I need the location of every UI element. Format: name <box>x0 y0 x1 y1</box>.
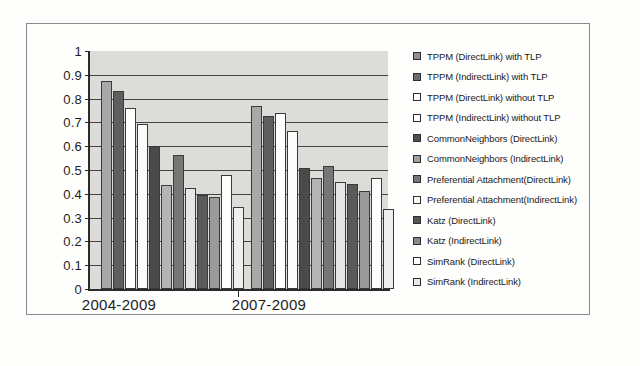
y-tick-label-2: 0.8 <box>36 93 82 106</box>
y-tick-label-1: 0.9 <box>36 69 82 82</box>
y-tick-label-4: 0.6 <box>36 140 82 153</box>
legend-swatch-icon-10 <box>413 257 421 265</box>
legend-item-2[interactable]: TPPM (DirectLink) without TLP <box>413 87 588 108</box>
legend-item-9[interactable]: Katz (IndirectLink) <box>413 231 588 252</box>
bar-0-9 <box>209 197 220 289</box>
bar-1-6 <box>323 166 334 289</box>
bar-0-2 <box>125 108 136 289</box>
legend-item-10[interactable]: SimRank (DirectLink) <box>413 251 588 272</box>
bar-group-1 <box>251 51 395 289</box>
bar-1-5 <box>311 178 322 289</box>
legend-label-11: SimRank (IndirectLink) <box>427 277 521 287</box>
legend-swatch-icon-5 <box>413 155 421 163</box>
bar-group-0 <box>101 51 245 289</box>
legend-item-3[interactable]: TPPM (IndirectLink) without TLP <box>413 108 588 129</box>
bar-0-10 <box>221 175 232 289</box>
bar-1-4 <box>299 168 310 289</box>
y-tick-label-8: 0.2 <box>36 235 82 248</box>
legend-label-3: TPPM (IndirectLink) without TLP <box>427 113 560 123</box>
legend-swatch-icon-6 <box>413 175 421 183</box>
chart-legend: TPPM (DirectLink) with TLPTPPM (Indirect… <box>413 46 588 292</box>
bar-0-6 <box>173 155 184 289</box>
legend-swatch-icon-2 <box>413 93 421 101</box>
y-tick-label-5: 0.5 <box>36 164 82 177</box>
legend-label-5: CommonNeighbors (IndirectLink) <box>427 154 563 164</box>
bar-0-1 <box>113 91 124 289</box>
legend-label-0: TPPM (DirectLink) with TLP <box>427 52 541 62</box>
bar-1-7 <box>335 182 346 289</box>
bar-1-8 <box>347 184 358 289</box>
legend-swatch-icon-0 <box>413 52 421 60</box>
legend-label-6: Preferential Attachment(DirectLink) <box>427 175 571 185</box>
legend-label-1: TPPM (IndirectLink) with TLP <box>427 72 548 82</box>
legend-item-4[interactable]: CommonNeighbors (DirectLink) <box>413 128 588 149</box>
legend-item-1[interactable]: TPPM (IndirectLink) with TLP <box>413 67 588 88</box>
y-tick-label-6: 0.4 <box>36 188 82 201</box>
legend-swatch-icon-7 <box>413 196 421 204</box>
figure-frame: 10.90.80.70.60.50.40.30.20.10 2004-2009 … <box>26 23 590 315</box>
legend-label-8: Katz (DirectLink) <box>427 216 496 226</box>
bar-0-0 <box>101 81 112 289</box>
bar-1-10 <box>371 178 382 289</box>
legend-item-6[interactable]: Preferential Attachment(DirectLink) <box>413 169 588 190</box>
bar-0-4 <box>149 146 160 289</box>
legend-label-9: Katz (IndirectLink) <box>427 236 502 246</box>
y-tick-0 <box>85 51 90 52</box>
bar-1-2 <box>275 113 286 289</box>
bar-0-11 <box>233 207 244 289</box>
bar-1-11 <box>383 209 394 289</box>
bar-1-1 <box>263 116 274 289</box>
y-tick-label-0: 1 <box>36 45 82 58</box>
legend-item-11[interactable]: SimRank (IndirectLink) <box>413 272 588 293</box>
legend-label-2: TPPM (DirectLink) without TLP <box>427 93 554 103</box>
legend-label-7: Preferential Attachment(IndirectLink) <box>427 195 577 205</box>
legend-item-8[interactable]: Katz (DirectLink) <box>413 210 588 231</box>
x-category-label-0: 2004-2009 <box>82 296 156 313</box>
legend-swatch-icon-11 <box>413 278 421 286</box>
legend-swatch-icon-3 <box>413 114 421 122</box>
legend-swatch-icon-9 <box>413 237 421 245</box>
y-tick-label-7: 0.3 <box>36 212 82 225</box>
bar-0-7 <box>185 188 196 289</box>
legend-item-7[interactable]: Preferential Attachment(IndirectLink) <box>413 190 588 211</box>
x-category-label-1: 2007-2009 <box>232 296 306 313</box>
x-axis-line <box>88 289 390 291</box>
y-tick-label-9: 0.1 <box>36 259 82 272</box>
legend-label-4: CommonNeighbors (DirectLink) <box>427 134 557 144</box>
y-tick-label-10: 0 <box>36 283 82 296</box>
bar-0-3 <box>137 124 148 289</box>
legend-swatch-icon-8 <box>413 216 421 224</box>
bar-0-5 <box>161 185 172 289</box>
bar-1-3 <box>287 131 298 289</box>
legend-swatch-icon-1 <box>413 73 421 81</box>
y-tick-label-3: 0.7 <box>36 116 82 129</box>
legend-item-5[interactable]: CommonNeighbors (IndirectLink) <box>413 149 588 170</box>
legend-item-0[interactable]: TPPM (DirectLink) with TLP <box>413 46 588 67</box>
legend-label-10: SimRank (DirectLink) <box>427 257 515 267</box>
bar-0-8 <box>197 195 208 289</box>
bar-1-9 <box>359 191 370 289</box>
bar-1-0 <box>251 106 262 289</box>
legend-swatch-icon-4 <box>413 134 421 142</box>
